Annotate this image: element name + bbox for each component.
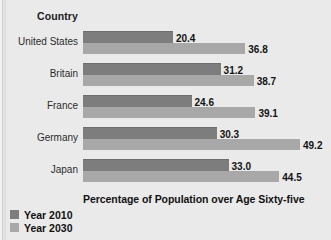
- category-axis-title: Country: [0, 10, 78, 22]
- bar-group: 31.238.7: [83, 63, 254, 86]
- chart-legend: Year 2010 Year 2030: [10, 208, 72, 234]
- bar-value-label: 33.0: [232, 160, 251, 171]
- bar-value-label: 38.7: [257, 75, 276, 86]
- value-axis-title: Percentage of Population over Age Sixty-…: [83, 193, 304, 205]
- legend-item[interactable]: Year 2010: [10, 208, 72, 221]
- legend-swatch-icon: [10, 210, 19, 219]
- bar-row: France24.639.1: [0, 95, 331, 118]
- bar-2030[interactable]: 39.1: [83, 107, 255, 118]
- bar-value-label: 36.8: [248, 43, 267, 54]
- legend-item-label: Year 2010: [24, 209, 72, 221]
- bar-2010[interactable]: 33.0: [83, 159, 229, 171]
- bar-2030[interactable]: 38.7: [83, 75, 254, 86]
- bar-row-label: United States: [0, 36, 78, 47]
- bar-row: Germany30.349.2: [0, 127, 331, 150]
- bar-group: 24.639.1: [83, 95, 255, 118]
- bar-row-label: Germany: [0, 132, 78, 143]
- bar-row: Japan33.044.5: [0, 159, 331, 182]
- bar-row: United States20.436.8: [0, 31, 331, 54]
- bar-2030[interactable]: 44.5: [83, 171, 279, 182]
- bar-value-label: 49.2: [303, 139, 322, 150]
- bar-2010[interactable]: 30.3: [83, 127, 217, 139]
- bar-value-label: 24.6: [195, 96, 214, 107]
- bar-2030[interactable]: 49.2: [83, 139, 300, 150]
- bar-row-label: Britain: [0, 68, 78, 79]
- bar-value-label: 31.2: [224, 64, 243, 75]
- bar-value-label: 20.4: [176, 32, 195, 43]
- bar-row-label: Japan: [0, 164, 78, 175]
- chart-figure: Country United States20.436.8Britain31.2…: [0, 0, 331, 240]
- bar-2010[interactable]: 31.2: [83, 63, 221, 75]
- bar-group: 20.436.8: [83, 31, 245, 54]
- bar-2010[interactable]: 20.4: [83, 31, 173, 43]
- bar-2030[interactable]: 36.8: [83, 43, 245, 54]
- bar-2010[interactable]: 24.6: [83, 95, 192, 107]
- legend-item-label: Year 2030: [24, 222, 72, 234]
- bar-value-label: 44.5: [282, 171, 301, 182]
- bar-value-label: 39.1: [258, 107, 277, 118]
- bar-value-label: 30.3: [220, 128, 239, 139]
- bar-group: 30.349.2: [83, 127, 300, 150]
- bar-row-label: France: [0, 100, 78, 111]
- legend-swatch-icon: [10, 223, 19, 232]
- bar-group: 33.044.5: [83, 159, 279, 182]
- legend-item[interactable]: Year 2030: [10, 221, 72, 234]
- plot-area: Country United States20.436.8Britain31.2…: [0, 0, 331, 240]
- bar-row: Britain31.238.7: [0, 63, 331, 86]
